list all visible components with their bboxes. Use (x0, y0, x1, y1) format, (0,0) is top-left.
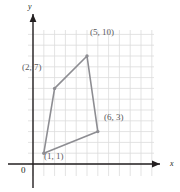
x-axis-arrow (152, 161, 160, 168)
vertex-label-p1: (2, 7) (22, 63, 42, 72)
coordinate-plane-figure: y x 0 (1, 1) (2, 7) (5, 10) (6, 3) (0, 0, 180, 192)
vertex-label-p0: (1, 1) (44, 152, 64, 161)
x-axis-label: x (170, 160, 174, 168)
y-axis-arrow (30, 14, 37, 22)
vertex-point-p3 (96, 130, 99, 133)
quadrilateral-outline (44, 56, 98, 153)
axes (8, 14, 160, 188)
vertex-point-p2 (85, 54, 88, 57)
vertex-label-p2: (5, 10) (90, 28, 114, 37)
vertex-markers (42, 54, 99, 155)
vertex-point-p1 (53, 87, 56, 90)
vertex-label-p3: (6, 3) (104, 113, 124, 122)
y-axis-label: y (28, 3, 32, 11)
origin-label: 0 (21, 166, 26, 175)
quadrilateral-shape (42, 54, 99, 155)
